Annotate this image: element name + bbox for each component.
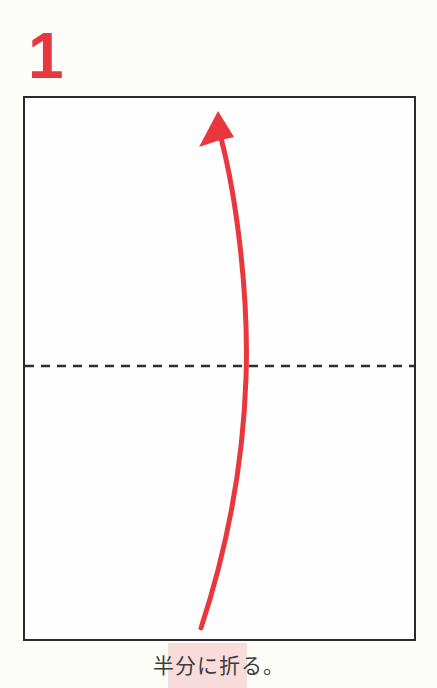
step-number: 1 — [28, 24, 62, 88]
origami-instruction-page: 1 半分に折る。 — [0, 0, 437, 688]
paper-sheet — [23, 96, 416, 641]
step-caption: 半分に折る。 — [0, 649, 437, 679]
